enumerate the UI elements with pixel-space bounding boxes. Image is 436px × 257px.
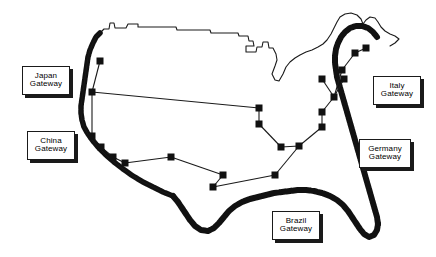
northern-border-outline [100,13,399,81]
network-link [171,157,223,175]
gateway-word: Gateway [280,225,312,233]
map-outline-group [100,13,399,81]
gateway-word: Gateway [30,80,62,88]
network-node-n10[interactable] [256,105,263,112]
network-node-n16[interactable] [319,124,326,131]
gateway-label-china[interactable]: ChinaGateway [27,131,75,160]
network-node-n17[interactable] [331,94,338,101]
network-node-n9[interactable] [210,184,217,191]
network-node-n22[interactable] [363,45,370,52]
network-node-n3[interactable] [89,133,96,140]
gateway-label-italy[interactable]: ItalyGateway [373,76,421,105]
network-node-n2[interactable] [89,89,96,96]
network-link [92,92,259,108]
network-link [125,157,171,163]
gateway-label-germany[interactable]: GermanyGateway [359,139,411,168]
network-node-n18[interactable] [341,76,348,83]
network-node-n19[interactable] [319,76,326,83]
gateway-label-brazil[interactable]: BrazilGateway [272,211,320,240]
network-node-n21[interactable] [352,50,359,57]
network-node-n12[interactable] [272,172,279,179]
network-node-n1[interactable] [97,58,104,65]
network-link [92,61,100,92]
network-links-group [92,48,366,187]
network-node-n13[interactable] [278,144,285,151]
network-gateway-map: JapanGatewayChinaGatewayItalyGatewayGerm… [0,0,436,257]
network-node-n8[interactable] [220,172,227,179]
network-node-n11[interactable] [256,121,263,128]
west-coastline-edge [81,33,173,196]
network-node-n6[interactable] [122,160,129,167]
gateway-word: Gateway [369,153,401,161]
map-graphic [0,0,436,257]
gateway-word: Gateway [381,90,413,98]
network-node-n5[interactable] [110,154,117,161]
gateway-label-japan[interactable]: JapanGateway [22,66,70,95]
coastline-group [81,26,378,237]
network-nodes-group [89,45,370,191]
gateway-word: Gateway [35,145,67,153]
network-node-n7[interactable] [168,154,175,161]
network-node-n20[interactable] [339,67,346,74]
network-node-n4[interactable] [98,144,105,151]
network-node-n15[interactable] [319,109,326,116]
network-node-n14[interactable] [296,143,303,150]
